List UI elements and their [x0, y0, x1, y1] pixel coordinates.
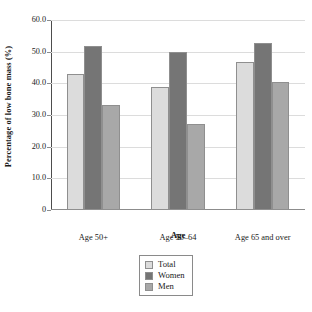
legend-swatch — [145, 283, 153, 291]
legend-swatch — [145, 261, 153, 269]
legend-item: Women — [145, 270, 185, 281]
bar — [187, 124, 205, 210]
y-axis-tick-label: 0 — [16, 206, 46, 214]
y-axis-title-label: Percentage of low bone mass (%) — [5, 45, 14, 166]
y-axis-tick — [47, 115, 51, 116]
chart-legend: TotalWomenMen — [139, 255, 193, 296]
bar — [102, 105, 120, 210]
legend-label: Total — [158, 260, 176, 269]
y-axis-tick-label: 40.0 — [16, 79, 46, 87]
y-axis-tick-label: 10.0 — [16, 174, 46, 182]
y-axis-tick — [47, 178, 51, 179]
legend-item: Men — [145, 281, 185, 292]
legend-label: Women — [158, 271, 185, 280]
y-axis-tick-label: 50.0 — [16, 48, 46, 56]
legend-item: Total — [145, 259, 185, 270]
y-axis-tick-label: 30.0 — [16, 111, 46, 119]
bar — [236, 62, 254, 210]
x-axis-title: Age — [51, 230, 305, 240]
y-axis-tick — [47, 20, 51, 21]
y-axis-tick — [47, 83, 51, 84]
bar — [67, 74, 85, 210]
legend-swatch — [145, 272, 153, 280]
bar — [169, 52, 187, 210]
legend-label: Men — [158, 282, 174, 291]
y-axis-tick-label: 60.0 — [16, 16, 46, 24]
bar — [272, 82, 290, 210]
y-axis-tick — [47, 52, 51, 53]
plot-area: Age 50+Age 50–64Age 65 and over — [51, 20, 305, 210]
bar — [151, 87, 169, 211]
y-axis-tick-labels: 010.020.030.040.050.060.0 — [16, 0, 46, 212]
y-axis-tick — [47, 147, 51, 148]
bar — [254, 43, 272, 210]
bar-chart-figure: Percentage of low bone mass (%) 010.020.… — [0, 0, 312, 312]
y-axis-tick — [47, 210, 51, 211]
y-axis-tick-label: 20.0 — [16, 143, 46, 151]
bar — [84, 46, 102, 210]
gridline — [51, 20, 305, 21]
